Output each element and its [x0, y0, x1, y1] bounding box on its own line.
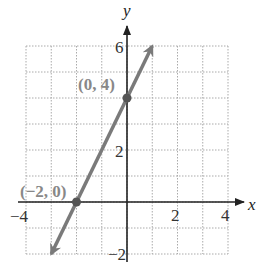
axes	[18, 26, 244, 262]
data-point	[72, 198, 81, 207]
y-axis-label: y	[121, 1, 131, 20]
x-tick-label: 4	[221, 206, 230, 225]
x-tick-label: −4	[10, 207, 29, 226]
y-tick-label: 2	[115, 142, 124, 161]
point-label: (−2, 0)	[20, 182, 67, 201]
point-label: (0, 4)	[78, 75, 115, 94]
y-tick-label: 6	[115, 38, 124, 57]
y-tick-label: −2	[108, 245, 126, 264]
labels: yx−42462−2(0, 4)(−2, 0)	[10, 1, 256, 264]
x-tick-label: 2	[171, 206, 180, 225]
data-point	[123, 94, 132, 103]
x-axis-label: x	[247, 195, 256, 214]
graph: yx−42462−2(0, 4)(−2, 0)	[0, 0, 256, 270]
